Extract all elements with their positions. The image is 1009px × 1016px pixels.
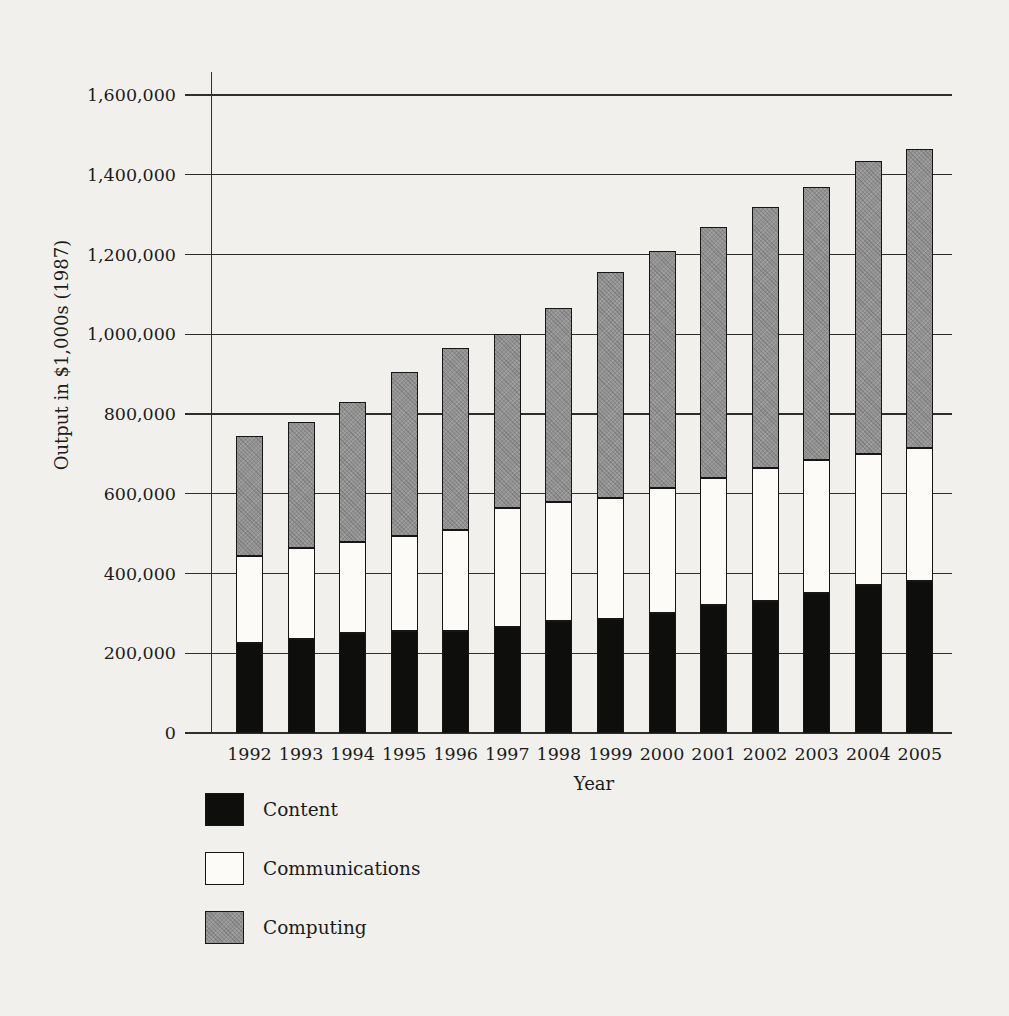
y-tick-label: 1,000,000 [26, 322, 176, 346]
bar-1999-content [597, 619, 624, 733]
y-tick-label: 600,000 [26, 482, 176, 506]
bar-1998-computing [545, 308, 572, 502]
y-tick-label: 1,400,000 [26, 163, 176, 187]
bar-1998-communications [545, 502, 572, 621]
bar-2004-communications [855, 454, 882, 585]
y-tick-label: 0 [26, 721, 176, 745]
bar-1996-content [442, 631, 469, 733]
y-tick-label: 1,200,000 [26, 243, 176, 267]
bar-1994-computing [339, 402, 366, 542]
legend-item-communications: Communications [205, 852, 420, 885]
bar-1995-communications [391, 536, 418, 631]
bar-2003-content [803, 593, 830, 733]
computing-swatch [205, 911, 244, 944]
bar-2003-communications [803, 460, 830, 593]
bar-2004-content [855, 585, 882, 733]
bar-1994-content [339, 633, 366, 733]
bar-1996-computing [442, 348, 469, 530]
x-tick-label: 2005 [890, 744, 950, 764]
bar-1993-content [288, 639, 315, 733]
bar-2003-computing [803, 187, 830, 460]
bar-2002-communications [752, 468, 779, 601]
gridline [185, 174, 952, 175]
bar-2005-communications [906, 448, 933, 581]
bar-2004-computing [855, 161, 882, 454]
bar-1997-computing [494, 334, 521, 508]
bar-1999-communications [597, 498, 624, 619]
communications-swatch [205, 852, 244, 885]
gridline [185, 254, 952, 255]
y-axis-line [211, 72, 213, 733]
bar-1992-content [236, 643, 263, 733]
legend: Content Communications Computing [205, 793, 420, 970]
legend-label-communications: Communications [263, 858, 420, 879]
legend-item-computing: Computing [205, 911, 420, 944]
figure: 0200,000400,000600,000800,0001,000,0001,… [0, 0, 1009, 1016]
content-swatch [205, 793, 244, 826]
chart-plot: 0200,000400,000600,000800,0001,000,0001,… [0, 0, 1009, 1016]
y-tick-label: 1,600,000 [26, 83, 176, 107]
bar-1999-computing [597, 272, 624, 498]
bar-2001-content [700, 605, 727, 733]
bar-1994-communications [339, 542, 366, 633]
bar-2002-computing [752, 207, 779, 468]
bar-2000-computing [649, 251, 676, 488]
bar-2005-computing [906, 149, 933, 448]
bar-1997-communications [494, 508, 521, 627]
y-tick-label: 200,000 [26, 641, 176, 665]
gridline [185, 94, 952, 95]
bar-2002-content [752, 601, 779, 733]
bar-2000-communications [649, 488, 676, 613]
bar-2001-communications [700, 478, 727, 605]
bar-1992-computing [236, 436, 263, 556]
legend-item-content: Content [205, 793, 420, 826]
bar-1993-communications [288, 548, 315, 639]
bar-1992-communications [236, 556, 263, 643]
bar-2000-content [649, 613, 676, 733]
bar-1997-content [494, 627, 521, 733]
y-tick-label: 800,000 [26, 402, 176, 426]
bar-1993-computing [288, 422, 315, 548]
bar-1995-content [391, 631, 418, 733]
bar-1998-content [545, 621, 572, 733]
bar-2005-content [906, 581, 933, 733]
bar-2001-computing [700, 227, 727, 478]
x-axis-title: Year [544, 773, 644, 794]
legend-label-computing: Computing [263, 917, 367, 938]
bar-1996-communications [442, 530, 469, 631]
y-axis-title: Output in $1,000s (1987) [51, 195, 77, 515]
legend-label-content: Content [263, 799, 338, 820]
bar-1995-computing [391, 372, 418, 536]
y-tick-label: 400,000 [26, 562, 176, 586]
